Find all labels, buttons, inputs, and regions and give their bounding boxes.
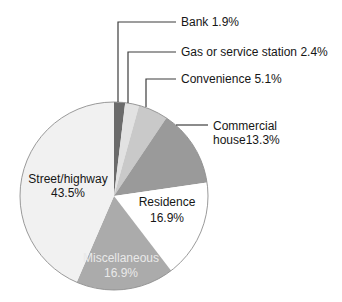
label-miscellaneous-line2: 16.9%	[61, 266, 181, 281]
label-residence: Residence 16.9%	[122, 194, 212, 226]
pie-chart-figure: Bank 1.9% Gas or service station 2.4% Co…	[0, 0, 342, 302]
label-miscellaneous: Miscellaneous 16.9%	[61, 251, 181, 281]
leader-line-bank	[118, 22, 176, 102]
label-street-highway-line2: 43.5%	[13, 186, 123, 200]
label-miscellaneous-line1: Miscellaneous	[61, 251, 181, 266]
label-commercial-house: Commercial house13.3%	[213, 119, 280, 147]
label-commercial-house-line1: Commercial	[213, 119, 280, 133]
label-convenience: Convenience 5.1%	[181, 72, 282, 86]
label-street-highway: Street/highway 43.5%	[13, 172, 123, 200]
label-commercial-house-line2: house13.3%	[213, 133, 280, 147]
label-residence-line1: Residence	[122, 194, 212, 210]
label-street-highway-line1: Street/highway	[13, 172, 123, 186]
leader-line-convenience	[146, 79, 176, 107]
label-residence-line2: 16.9%	[122, 210, 212, 226]
leader-line-gas	[128, 52, 176, 103]
label-bank: Bank 1.9%	[181, 15, 239, 29]
label-gas-or-service-station: Gas or service station 2.4%	[181, 45, 328, 59]
